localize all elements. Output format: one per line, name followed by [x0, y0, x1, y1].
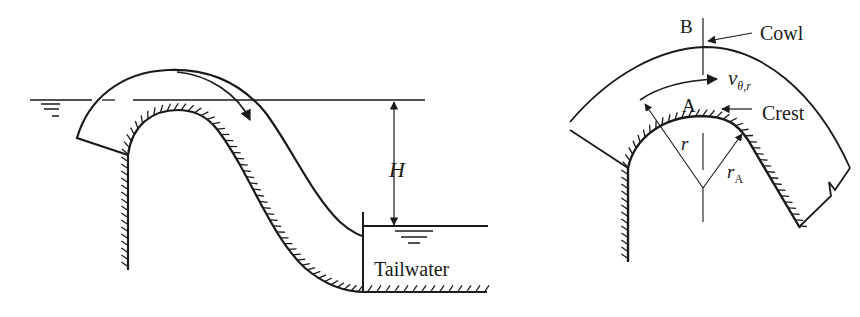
tailwater-label: Tailwater	[374, 259, 449, 279]
downstream-outlet-edge	[799, 168, 850, 227]
tailwater-surface-symbol-icon	[395, 231, 433, 243]
water-surface-symbol-icon	[41, 104, 60, 116]
velocity-arc-arrow	[640, 79, 717, 100]
cowl-arc	[570, 47, 850, 168]
crest-label: Crest	[762, 103, 804, 123]
velocity-symbol: v	[728, 66, 737, 90]
flow-direction-arrow	[177, 72, 250, 120]
dam-hatching	[121, 103, 363, 292]
radius-label: r	[681, 134, 688, 153]
right-crest-detail-panel	[570, 18, 850, 262]
siphon-spillway-diagram: H Tailwater B Cowl vθ,r A Crest r rA	[0, 0, 860, 317]
crest-surface	[628, 116, 800, 262]
radius-a-subscript: A	[734, 172, 743, 186]
section-a-label: A	[682, 96, 696, 115]
section-b-label: B	[680, 17, 693, 36]
cowl-lip	[570, 130, 628, 168]
cowl-label: Cowl	[760, 23, 803, 43]
head-label: H	[389, 159, 405, 181]
velocity-label: vθ,r	[728, 68, 751, 89]
velocity-subscript: θ,r	[737, 79, 751, 93]
cowl-pointer-arrow	[708, 33, 752, 41]
cowl-outline	[77, 70, 363, 236]
radius-a-label: rA	[727, 162, 743, 181]
